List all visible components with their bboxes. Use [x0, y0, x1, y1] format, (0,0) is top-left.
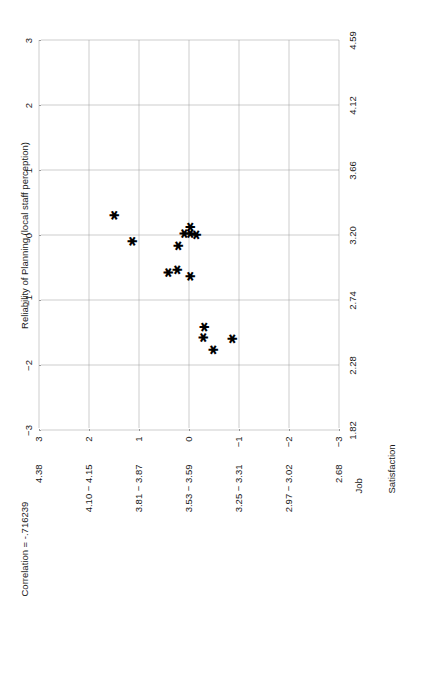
data-point: ✱ — [185, 272, 194, 281]
data-point: ✱ — [172, 266, 181, 275]
x-tick-label: 2.74 — [346, 291, 357, 310]
gridline-vertical — [38, 39, 338, 40]
y-tick-label: 3.25 − 3.31 — [233, 464, 244, 512]
secondary-y-tick-label: 3 — [33, 436, 44, 452]
x-tick-label: 4.59 — [346, 31, 357, 50]
y-tick-label: 2.97 − 3.02 — [283, 464, 294, 512]
secondary-x-tick-label: −2 — [22, 360, 33, 371]
data-point: ✱ — [227, 335, 236, 344]
correlation-annotation: Correlation = -.716239 — [18, 501, 29, 596]
gridline-horizontal — [238, 40, 239, 430]
data-point: ✱ — [191, 231, 200, 240]
data-point: ✱ — [109, 211, 118, 220]
secondary-x-tick-label: 2 — [22, 102, 33, 107]
rotated-figure: 3210−1−2−3 3210−1−2−3 1.822.282.743.203.… — [0, 0, 425, 676]
gridline-horizontal — [288, 40, 289, 430]
secondary-y-tick-label: −1 — [233, 436, 244, 452]
data-point: ✱ — [198, 333, 207, 342]
y-axis-title-line1: Job — [352, 444, 363, 493]
secondary-y-tick-label: 1 — [133, 436, 144, 452]
data-point: ✱ — [127, 237, 136, 246]
y-axis-title-line2: Satisfaction — [385, 444, 396, 493]
secondary-x-tick-label: 3 — [22, 37, 33, 42]
gridline-vertical — [38, 104, 338, 105]
y-tick-label: 4.10 − 4.15 — [83, 464, 94, 512]
data-point: ✱ — [208, 346, 217, 355]
x-tick-label: 4.12 — [346, 96, 357, 115]
gridline-horizontal — [338, 40, 339, 430]
y-tick-label: 3.53 − 3.59 — [183, 464, 194, 512]
y-tick-label: 3.81 − 3.87 — [133, 464, 144, 512]
x-tick-label: 1.82 — [346, 421, 357, 440]
scatter-plot-page: 3210−1−2−3 3210−1−2−3 1.822.282.743.203.… — [0, 0, 425, 676]
y-tick-label: 4.38 — [33, 464, 44, 483]
x-tick-label: 2.28 — [346, 356, 357, 375]
x-axis-title: Reliability of Planning (local staff per… — [18, 142, 29, 329]
x-tick-label: 3.20 — [346, 226, 357, 245]
gridline-vertical — [38, 169, 338, 170]
data-point: ✱ — [173, 242, 182, 251]
secondary-y-tick-label: 2 — [83, 436, 94, 452]
x-tick-label: 3.66 — [346, 161, 357, 180]
y-axis-title: Job Satisfaction — [330, 444, 418, 493]
data-point: ✱ — [199, 323, 208, 332]
secondary-y-tick-label: −2 — [283, 436, 294, 452]
secondary-y-tick-label: 0 — [183, 436, 194, 452]
secondary-x-tick-label: −3 — [22, 425, 33, 436]
